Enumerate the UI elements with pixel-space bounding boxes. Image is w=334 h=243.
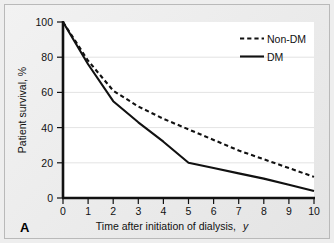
legend-label-dm: DM [267, 51, 283, 63]
y-tick-label-40: 40 [41, 122, 53, 134]
x-tick-label-3: 3 [135, 205, 141, 217]
x-tick-label-10: 10 [308, 205, 320, 217]
x-axis-title: Time after initiation of dialysis, y [96, 220, 249, 232]
y-tick-label-100: 100 [35, 16, 53, 28]
x-tick-label-2: 2 [110, 205, 116, 217]
x-tick-label-9: 9 [286, 205, 292, 217]
figure-container: 100 80 60 40 20 0 0 1 2 3 4 5 6 7 8 9 [0, 0, 334, 243]
x-tick-label-1: 1 [85, 205, 91, 217]
y-tick-label-0: 0 [47, 192, 53, 204]
x-tick-label-6: 6 [211, 205, 217, 217]
plot-area-background [63, 22, 314, 198]
y-tick-label-60: 60 [41, 86, 53, 98]
x-axis-title-main: Time after initiation of dialysis, [96, 220, 236, 232]
panel-label: A [20, 220, 30, 235]
legend-label-non-dm: Non-DM [267, 33, 306, 45]
y-tick-label-20: 20 [41, 157, 53, 169]
x-tick-label-0: 0 [60, 205, 66, 217]
x-tick-label-7: 7 [236, 205, 242, 217]
x-tick-label-4: 4 [160, 205, 166, 217]
chart-canvas: 100 80 60 40 20 0 0 1 2 3 4 5 6 7 8 9 [0, 0, 334, 243]
x-axis-title-unit: y [242, 220, 249, 232]
y-tick-label-80: 80 [41, 51, 53, 63]
y-axis-title: Patient survival, % [16, 67, 28, 153]
x-tick-label-5: 5 [186, 205, 192, 217]
x-tick-label-8: 8 [261, 205, 267, 217]
